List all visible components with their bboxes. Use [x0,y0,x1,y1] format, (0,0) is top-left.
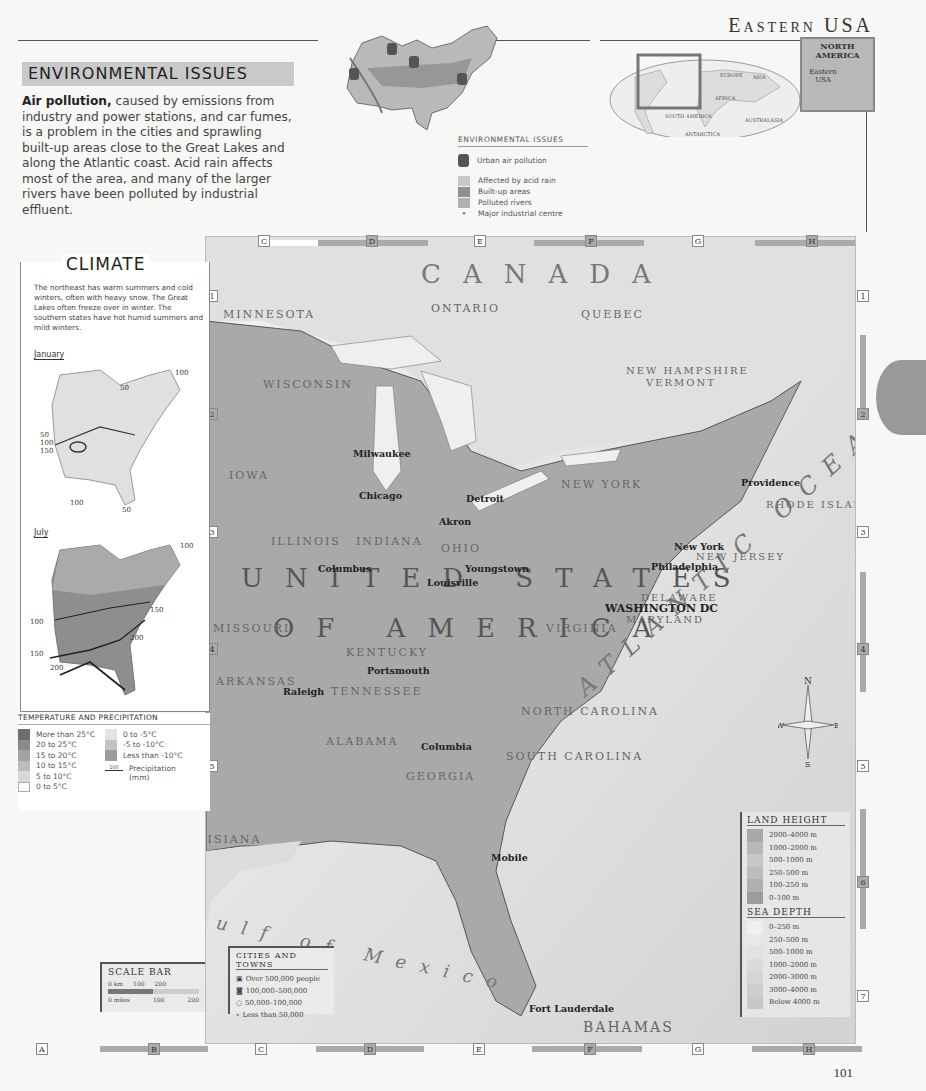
july-climate-map: 100 100 150 150 200 200 [30,540,200,700]
svg-text:150: 150 [30,650,43,658]
svg-text:100: 100 [180,542,193,550]
grid-row-label: 2 [857,408,869,420]
state-label: WISCONSIN [263,378,353,391]
state-label: ILLINOIS [271,535,341,548]
env-issues-legend: ENVIRONMENTAL ISSUES Urban air pollution… [458,135,588,219]
state-label: LOUISIANA [205,833,261,846]
env-body: caused by emissions from industry and po… [22,94,292,217]
city-label: Louisville [427,577,478,588]
world-label: EUROPE [720,72,743,78]
grid-column-label: D [366,235,378,247]
grid-column-label: A [36,1043,48,1055]
svg-text:50: 50 [120,384,129,392]
land-height-list: 2000–4000 m 1000–2000 m 500–1000 m 250–5… [747,829,845,904]
state-label: RHODE ISLAND [766,499,856,510]
city-label: Mobile [491,852,528,863]
state-label: MISSOURI [213,622,290,635]
polluted-rivers-swatch [458,198,470,208]
grid-column-label: B [148,1043,160,1055]
compass-rose-icon: N S W E [778,677,838,767]
svg-text:100: 100 [70,499,83,507]
env-issues-heading: ENVIRONMENTAL ISSUES [22,62,294,86]
state-label: SOUTH CAROLINA [506,750,643,763]
grid-column-label: F [584,1043,596,1055]
grid-column-label: E [473,1043,485,1055]
env-legend-title: ENVIRONMENTAL ISSUES [458,135,588,147]
city-small-circle-icon: ∘ [236,1011,239,1019]
city-label: Columbia [421,741,472,752]
precipitation-line-sample: 100 [105,764,123,771]
inset-region-label: Eastern USA [808,68,838,84]
state-label: ALABAMA [326,735,398,748]
state-label: TENNESSEE [331,685,423,698]
city-label: Youngstown [465,563,529,574]
inset-connector [866,112,867,232]
svg-text:200: 200 [50,664,63,672]
grid-row-label: 6 [857,876,869,888]
svg-text:AFRICA: AFRICA [714,95,736,101]
header-rule [600,40,800,41]
city-square-icon: ▣ [236,975,243,983]
world-locator-map: EUROPE ASIA AFRICA SOUTH AMERICA AUSTRAL… [605,52,800,137]
sea-depth-title: SEA DEPTH [747,907,845,918]
city-dot-in-square-icon: ◙ [236,987,243,995]
city-label: Fort Lauderdale [529,1003,614,1014]
country-label: CANADA [421,259,673,289]
scale-bar-title: SCALE BAR [108,967,199,977]
land-height-title: LAND HEIGHT [747,815,845,826]
legend-row-urban-air: Urban air pollution [458,151,588,169]
grid-column-label: C [258,235,270,247]
state-label: NORTH CAROLINA [521,705,659,718]
province-label: QUEBEC [581,308,644,321]
svg-text:ASIA: ASIA [752,74,766,80]
city-label: Milwaukee [353,448,411,459]
svg-text:N: N [804,677,812,686]
city-label: Chicago [359,490,402,501]
svg-text:ANTARCTICA: ANTARCTICA [684,131,720,137]
page-title: Eastern USA [728,14,873,37]
grid-column-label: C [255,1043,267,1055]
temperature-precipitation-legend: TEMPERATURE AND PRECIPITATION More than … [18,713,210,811]
grid-column-label: F [585,235,597,247]
svg-text:SOUTH AMERICA: SOUTH AMERICA [665,113,712,119]
city-circle-icon: ○ [236,999,242,1007]
state-label: IOWA [229,469,269,482]
svg-text:150: 150 [150,606,163,614]
grid-column-label: E [474,235,486,247]
svg-text:S: S [805,760,810,767]
province-label: ONTARIO [431,302,500,315]
july-label: July [34,528,48,538]
svg-text:AUSTRALASIA: AUSTRALASIA [744,117,783,123]
state-label: NEW HAMPSHIRE [626,365,749,376]
city-label: Raleigh [283,686,324,697]
dot-icon: • [458,209,470,218]
cities-towns-legend: CITIES AND TOWNS ▣Over 500,000 people ◙1… [228,946,334,1014]
state-label: NEW YORK [561,478,642,491]
january-climate-map: 100 50 50 100 150 100 50 [40,365,190,515]
legend-row-industrial-centre: • Major industrial centre [458,208,588,219]
grid-row-label: 7 [857,990,869,1002]
inset-title: NORTH AMERICA [802,39,873,60]
tp-legend-title: TEMPERATURE AND PRECIPITATION [18,713,210,725]
climate-title: CLIMATE [62,254,149,274]
january-label: January [34,350,64,360]
grid-column-label: H [806,235,818,247]
legend-row-acid-rain: Affected by acid rain [458,175,588,186]
svg-text:150: 150 [40,447,53,455]
grid-row-label: 4 [857,643,869,655]
state-label: GEORGIA [406,770,475,783]
scale-bar: SCALE BAR 0 km 100 200 0 miles 100 200 [100,962,205,1012]
page-number: 101 [834,1065,854,1081]
state-label: INDIANA [356,535,423,548]
country-label: BAHAMAS [583,1019,674,1035]
svg-text:100: 100 [40,439,53,447]
state-label: VIRGINIA [546,622,618,635]
svg-text:E: E [834,721,838,730]
grid-row-label: 5 [857,760,869,772]
warm-temps-column: More than 25°C 20 to 25°C 15 to 20°C 10 … [18,729,95,792]
legend-row-polluted-rivers: Polluted rivers [458,197,588,208]
legend-row-built-up: Built-up areas [458,186,588,197]
scale-bar-graphic [108,989,199,994]
gas-mask-icon [458,154,469,167]
grid-row-label: 1 [857,290,869,302]
